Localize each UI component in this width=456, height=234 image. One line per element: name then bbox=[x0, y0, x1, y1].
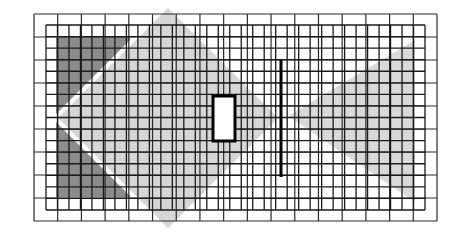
right-coverage-wedge bbox=[288, 40, 415, 202]
rectangular-obstacle bbox=[213, 96, 235, 141]
grid-coverage-diagram bbox=[0, 0, 456, 234]
